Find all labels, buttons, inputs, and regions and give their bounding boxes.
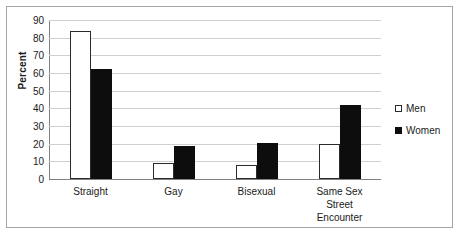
y-tick-label: 70 bbox=[33, 50, 44, 61]
legend-item-men[interactable]: Men bbox=[395, 103, 440, 114]
gridline bbox=[49, 179, 381, 180]
bar-group bbox=[215, 20, 298, 179]
y-tick-label: 40 bbox=[33, 103, 44, 114]
plot-area: 9080706050403020100 bbox=[49, 20, 381, 179]
category-label: Gay bbox=[132, 185, 215, 198]
y-tick-label: 60 bbox=[33, 68, 44, 79]
legend-item-women[interactable]: Women bbox=[395, 125, 440, 136]
y-tick-label: 10 bbox=[33, 156, 44, 167]
legend-label: Men bbox=[406, 103, 425, 114]
bar-women bbox=[91, 69, 112, 179]
bar-group bbox=[298, 20, 381, 179]
bar-group bbox=[49, 20, 132, 179]
y-tick-label: 20 bbox=[33, 138, 44, 149]
bar-women bbox=[340, 105, 361, 179]
bar-women bbox=[174, 146, 195, 179]
y-tick-label: 80 bbox=[33, 32, 44, 43]
bar-group bbox=[132, 20, 215, 179]
bar-men bbox=[236, 165, 257, 179]
category-label: Straight bbox=[49, 185, 132, 198]
chart-figure: Percent 9080706050403020100 StraightGayB… bbox=[6, 6, 453, 228]
y-tick-label: 30 bbox=[33, 121, 44, 132]
y-tick-label: 50 bbox=[33, 85, 44, 96]
y-tick-label: 90 bbox=[33, 15, 44, 26]
bar-men bbox=[319, 144, 340, 179]
chart-legend: MenWomen bbox=[395, 103, 440, 147]
bar-men bbox=[70, 31, 91, 179]
category-label: Same SexStreetEncounter bbox=[298, 185, 381, 224]
bar-men bbox=[153, 163, 174, 179]
y-axis-title: Percent bbox=[17, 26, 28, 116]
legend-swatch-icon bbox=[395, 105, 402, 112]
y-tick-label: 0 bbox=[38, 174, 44, 185]
legend-swatch-icon bbox=[395, 127, 402, 134]
category-label: Bisexual bbox=[215, 185, 298, 198]
legend-label: Women bbox=[406, 125, 440, 136]
bar-women bbox=[257, 143, 278, 179]
